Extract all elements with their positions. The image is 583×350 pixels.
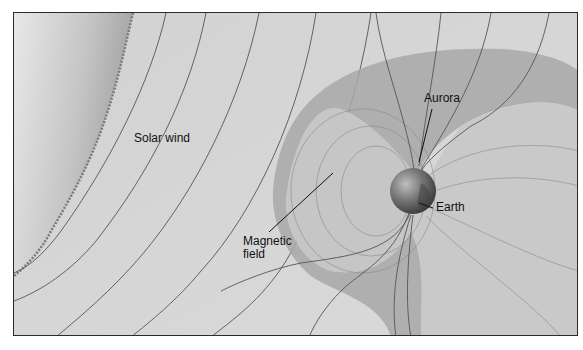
diagram-frame xyxy=(13,12,578,336)
magnetic-field-label-line2: field xyxy=(243,248,265,261)
solar-wind-label: Solar wind xyxy=(134,132,190,145)
earth-label: Earth xyxy=(436,201,465,214)
magnetosphere-illustration xyxy=(14,13,578,336)
aurora-label: Aurora xyxy=(424,92,460,105)
